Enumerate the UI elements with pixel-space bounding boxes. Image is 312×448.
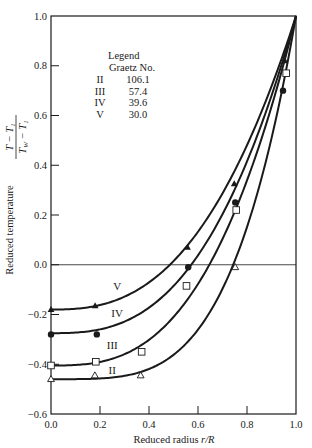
- svg-text:TW − T1: TW − T1: [17, 120, 30, 153]
- marker-open-square: [48, 362, 55, 369]
- curve-label-v: V: [113, 280, 121, 292]
- marker-filled-circle: [94, 331, 100, 337]
- legend-subtitle: Graetz No.: [109, 62, 155, 73]
- legend-title: Legend: [108, 50, 140, 61]
- x-tick-label: 0.6: [191, 419, 204, 430]
- data-curves: [51, 16, 296, 379]
- curve-label-ii: II: [109, 364, 117, 376]
- x-axis-title: Reduced radius r/R: [133, 434, 215, 445]
- y-axis-title: Reduced temperature: [4, 185, 15, 275]
- y-tick-label: −0.4: [28, 359, 48, 370]
- marker-open-square: [183, 283, 190, 290]
- marker-open-square: [138, 349, 145, 356]
- x-axis-ticks: 0.00.20.40.60.81.0: [44, 406, 302, 430]
- marker-open-triangle: [91, 372, 98, 378]
- x-tick-label: 0.2: [93, 419, 106, 430]
- legend-entry-value: 30.0: [129, 109, 147, 120]
- legend-entry-label: II: [97, 74, 104, 85]
- x-tick-label: 0.0: [44, 419, 57, 430]
- x-tick-label: 0.8: [240, 419, 253, 430]
- y-tick-label: 0.4: [34, 160, 48, 171]
- curve-iv: [51, 16, 296, 333]
- y-tick-label: 0.6: [34, 110, 47, 121]
- y-tick-label: −0.6: [28, 409, 47, 420]
- y-axis-ticks: 1.00.80.60.40.20.0−0.2−0.4−0.6: [28, 11, 59, 420]
- legend-entry-value: 39.6: [129, 97, 147, 108]
- marker-filled-circle: [48, 331, 54, 337]
- y-tick-label: −0.2: [28, 309, 47, 320]
- x-tick-label: 0.4: [142, 419, 156, 430]
- y-tick-label: 0.2: [34, 210, 47, 221]
- svg-text:T − T1: T − T1: [4, 123, 17, 150]
- data-markers: [48, 57, 290, 381]
- legend-entry-value: 106.1: [126, 74, 150, 85]
- legend: Legend Graetz No. II106.1III57.4IV39.6V3…: [94, 50, 155, 120]
- marker-filled-circle: [280, 87, 286, 93]
- legend-entry-label: IV: [94, 97, 105, 108]
- y-tick-label: 0.8: [34, 60, 47, 71]
- marker-open-square: [233, 207, 240, 214]
- y-tick-label: 0.0: [34, 259, 47, 270]
- marker-filled-circle: [232, 199, 238, 205]
- y-tick-label: 1.0: [34, 11, 47, 22]
- curve-v: [51, 16, 296, 310]
- y-axis-fraction: T − T1 TW − T1: [4, 115, 30, 159]
- chart: 0.00.20.40.60.81.0 1.00.80.60.40.20.0−0.…: [0, 0, 312, 448]
- x-tick-label: 1.0: [289, 419, 302, 430]
- curve-iii: [51, 16, 296, 365]
- marker-filled-circle: [185, 264, 191, 270]
- curve-label-iii: III: [107, 339, 118, 351]
- curve-ii: [51, 16, 296, 379]
- legend-entry-label: V: [96, 109, 104, 120]
- svg-text:Reduced temperature: Reduced temperature: [4, 185, 15, 275]
- curve-label-iv: IV: [111, 307, 123, 319]
- legend-entry-value: 57.4: [129, 86, 148, 97]
- legend-entry-label: III: [95, 86, 106, 97]
- marker-open-square: [93, 358, 100, 365]
- legend-rows: II106.1III57.4IV39.6V30.0: [94, 74, 149, 120]
- marker-open-square: [283, 70, 290, 77]
